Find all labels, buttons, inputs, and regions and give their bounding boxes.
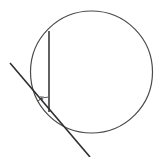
tangent-line <box>10 63 90 157</box>
angle-label-x: x <box>39 92 44 102</box>
geometry-figure: x <box>0 0 160 157</box>
geometry-canvas: x <box>0 0 160 157</box>
